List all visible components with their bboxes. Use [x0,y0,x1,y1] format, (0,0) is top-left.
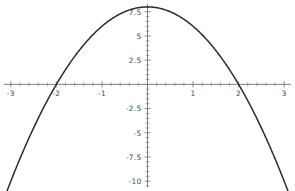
x-tick-label: -1 [98,89,106,98]
x-tick-label: -2 [52,89,60,98]
y-axis-tick-labels: 7.552.5-2.5-5-7.5-10 [126,8,142,186]
y-tick-label: -10 [129,177,142,186]
y-tick-label: -2.5 [126,104,142,113]
x-tick-label: 3 [282,89,287,98]
parabola-chart: -3-2-1123 7.552.5-2.5-5-7.5-10 [0,0,295,191]
y-tick-label: -7.5 [126,153,142,162]
y-tick-label: 2.5 [129,56,142,65]
x-tick-label: 1 [191,89,196,98]
plot-canvas: -3-2-1123 7.552.5-2.5-5-7.5-10 [0,0,295,191]
x-tick-label: 2 [236,89,241,98]
y-tick-label: -5 [134,129,142,138]
x-tick-label: -3 [7,89,15,98]
y-tick-label: 5 [136,32,141,41]
